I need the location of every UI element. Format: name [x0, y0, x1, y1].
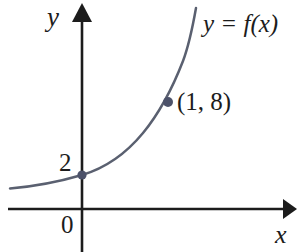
function-curve-label: y = f(x): [203, 11, 278, 36]
exponential-function-graph: y x 0 2 y = f(x) (1, 8): [0, 0, 303, 252]
x-axis-arrowhead: [283, 199, 297, 219]
y-axis-tick-label-2: 2: [59, 150, 72, 175]
origin-label: 0: [61, 212, 74, 237]
x-axis-label: x: [275, 222, 287, 248]
y-intercept-point-marker: [77, 170, 86, 179]
y-axis-label: y: [47, 4, 59, 31]
graph-canvas: [0, 0, 303, 252]
point-1-8-marker: [163, 97, 173, 107]
y-axis-arrowhead: [72, 3, 92, 22]
point-coordinate-label: (1, 8): [177, 89, 231, 114]
